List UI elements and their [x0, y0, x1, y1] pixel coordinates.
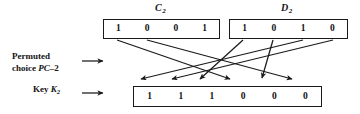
wire-d2b4-to-k2b2 — [172, 40, 333, 79]
c2-bit-cell: 1 — [104, 24, 133, 34]
k2-bit-cell: 0 — [259, 92, 290, 102]
d2-bit-register: 1 0 1 0 — [229, 19, 348, 39]
key-label-subscript: 2 — [57, 88, 60, 95]
wire-c2b1-to-k2b4 — [117, 40, 230, 79]
k2-bit-cell: 1 — [165, 92, 196, 102]
permuted-choice-line2-prefix: choice — [12, 63, 38, 73]
d2-bit-cell: 1 — [289, 24, 318, 34]
c2-caption-subscript: 2 — [162, 7, 166, 15]
c2-bit-cell: 0 — [162, 24, 191, 34]
k2-bit-register: 1 1 1 0 0 0 — [133, 86, 322, 107]
d2-caption-subscript: 2 — [288, 7, 292, 15]
permuted-choice-line2-italic: PC — [38, 63, 50, 73]
d2-bit-cell: 0 — [318, 24, 347, 34]
c2-box-caption: C2 — [155, 2, 166, 15]
pc2-permutation-diagram: C2 D2 1 0 0 1 1 0 1 0 1 1 1 0 0 0 Permut… — [0, 0, 360, 114]
c2-bit-cell: 1 — [190, 24, 219, 34]
c2-bit-cell: 0 — [133, 24, 162, 34]
k2-bit-cell: 0 — [228, 92, 259, 102]
c2-caption-letter: C — [155, 2, 162, 13]
d2-bit-cell: 1 — [230, 24, 259, 34]
k2-bit-cell: 1 — [196, 92, 227, 102]
k2-bit-cell: 0 — [290, 92, 321, 102]
wire-c2b2-to-k2b6 — [147, 40, 292, 79]
key-label-prefix: Key — [33, 84, 51, 94]
wire-d2b1-to-k2b3 — [200, 40, 243, 79]
permuted-choice-line1: Permuted — [12, 51, 50, 61]
d2-box-caption: D2 — [281, 2, 292, 15]
c2-bit-register: 1 0 0 1 — [103, 19, 220, 39]
key-label: Key K2 — [33, 84, 60, 98]
permuted-choice-line2-suffix: –2 — [50, 63, 59, 73]
k2-bit-cell: 1 — [134, 92, 165, 102]
wire-d2b3-to-k2b1 — [141, 40, 303, 79]
permuted-choice-label: Permuted choice PC–2 — [12, 51, 59, 74]
d2-bit-cell: 0 — [259, 24, 288, 34]
wire-d2b2-to-k2b5 — [262, 40, 273, 78]
